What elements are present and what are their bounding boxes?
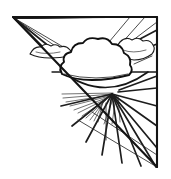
artwork-canvas: Sunburst Corner Vignette Black ink line … xyxy=(0,0,171,179)
triangular-sunburst-illustration: Sunburst Corner Vignette Black ink line … xyxy=(0,0,171,179)
